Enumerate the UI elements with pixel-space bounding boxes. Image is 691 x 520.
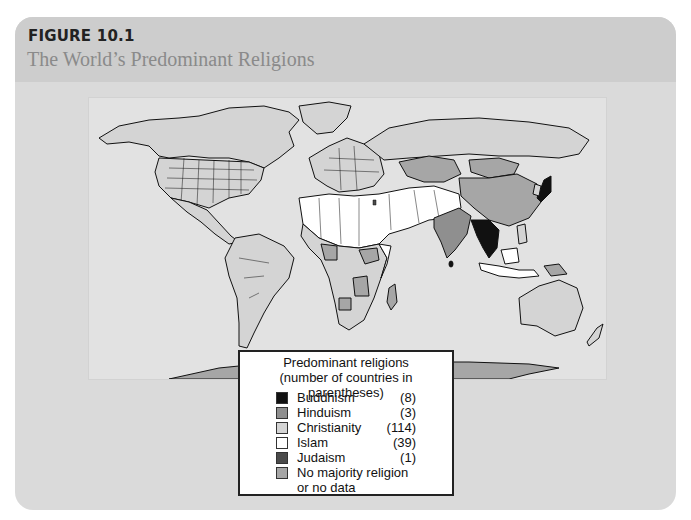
region-madagascar [387,284,397,310]
region-israel [373,200,376,205]
legend-count: (3) [376,405,416,420]
region-sri-lanka [449,261,453,267]
swatch-hinduism [276,407,288,419]
legend-label: Islam [297,435,328,450]
region-india [434,208,471,258]
legend-label-line1: No majority religion [297,465,408,480]
legend-count: (39) [376,435,416,450]
legend-label: No majority religion or no data [297,465,408,495]
legend-label-line2: or no data [297,480,408,495]
region-australia [519,280,583,336]
region-usa [155,158,264,208]
region-greenland [299,102,351,134]
world-map-svg [89,98,606,379]
legend-label: Judaism [297,450,345,465]
region-kazakhstan [399,156,461,182]
region-china [459,174,541,226]
swatch-buddhism [276,392,288,404]
region-southeast-asia [471,220,499,258]
swatch-christianity [276,422,288,434]
legend-count: (1) [376,450,416,465]
region-russia [364,118,589,160]
figure-label: FIGURE 10.1 [28,27,135,45]
world-map [88,97,607,380]
region-new-zealand [587,324,603,346]
map-legend: Predominant religions (number of countri… [238,350,454,496]
region-south-america [225,234,294,348]
region-canada-alaska [99,106,299,168]
legend-label: Christianity [297,420,361,435]
legend-label: Hinduism [297,405,351,420]
swatch-islam [276,437,288,449]
region-borneo [501,248,519,264]
swatch-judaism [276,452,288,464]
swatch-no-majority [276,467,288,479]
region-korea [533,184,541,196]
region-africa-no-majority-4 [339,298,351,310]
region-philippines [517,224,527,244]
figure-header: FIGURE 10.1 The World’s Predominant Reli… [15,17,676,82]
legend-label: Buddhism [297,390,355,405]
figure-card: FIGURE 10.1 The World’s Predominant Reli… [15,17,676,510]
legend-count: (114) [376,420,416,435]
region-papua [544,264,567,276]
figure-title: The World’s Predominant Religions [27,48,314,71]
legend-title-line1: Predominant religions [240,355,452,370]
region-indonesia [479,263,539,278]
legend-count: (8) [376,390,416,405]
region-africa-no-majority-3 [353,276,369,296]
